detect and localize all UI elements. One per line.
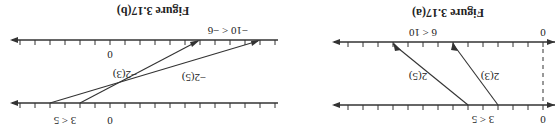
ticks-a (348, 42, 543, 110)
arrowhead-right-icon (10, 37, 18, 43)
label-arrow-neg2x5: −2(5) (181, 71, 206, 84)
arrowhead-left-icon (547, 39, 555, 45)
arrow-2x5 (393, 44, 468, 105)
label-zero-bottom: 0 (540, 114, 546, 126)
label-inequality-top: −10 < −6 (207, 25, 248, 37)
figure-a-title: Figure 3.17(a) (412, 6, 484, 20)
arrow-neg2x3 (80, 41, 198, 103)
arrowhead-icon (251, 40, 260, 46)
label-inequality-top: 6 < 10 (408, 27, 437, 39)
number-line-diagrams: 0 3 < 5 0 6 < 10 2(3) 2(5) Figure 3.17(a… (0, 0, 558, 131)
label-zero-top: 0 (540, 27, 546, 39)
arrowhead-icon (393, 42, 401, 51)
label-inequality-bottom: 3 < 5 (53, 115, 76, 127)
label-zero-bottom: 0 (107, 115, 113, 127)
label-arrow-2x3: 2(3) (481, 70, 500, 83)
arrowhead-right-icon (332, 102, 340, 108)
label-arrow-neg2x3: −2(3) (112, 68, 137, 81)
arrowhead-icon (190, 40, 200, 47)
label-inequality-bottom: 3 < 5 (471, 114, 494, 126)
figure-stage: 0 3 < 5 0 6 < 10 2(3) 2(5) Figure 3.17(a… (0, 0, 558, 131)
figure-b: 0 3 < 5 0 −10 < −6 −2(3) −2(5) Figure 3.… (10, 4, 278, 127)
figure-b-title: Figure 3.17(b) (117, 4, 189, 18)
rotated-scene: 0 3 < 5 0 6 < 10 2(3) 2(5) Figure 3.17(a… (0, 0, 558, 131)
arrowhead-right-icon (332, 39, 340, 45)
arrowhead-right-icon (10, 100, 18, 106)
arrowhead-left-icon (547, 102, 555, 108)
arrowhead-icon (451, 42, 458, 51)
label-zero-top: 0 (107, 49, 113, 61)
label-arrow-2x5: 2(5) (409, 70, 428, 83)
arrow-neg2x5 (50, 41, 258, 103)
figure-a: 0 3 < 5 0 6 < 10 2(3) 2(5) Figure 3.17(a… (332, 6, 555, 126)
